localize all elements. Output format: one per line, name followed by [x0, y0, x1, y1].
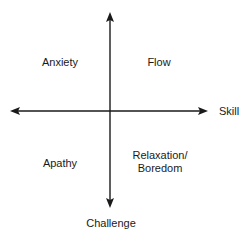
- axes-graphic: [0, 0, 251, 236]
- quadrant-label-anxiety: Anxiety: [42, 56, 78, 69]
- quadrant-label-line-2: Boredom: [132, 162, 187, 175]
- quadrant-label-line-1: Relaxation/: [132, 149, 187, 162]
- quadrant-label-apathy: Apathy: [43, 157, 77, 170]
- quadrant-label-flow: Flow: [147, 56, 170, 69]
- flow-quadrant-diagram: Anxiety Flow Apathy Relaxation/ Boredom …: [0, 0, 251, 236]
- axis-label-challenge: Challenge: [86, 217, 136, 230]
- axis-label-skill: Skill: [219, 105, 239, 118]
- horizontal-axis: [10, 107, 208, 115]
- vertical-axis: [106, 12, 114, 208]
- quadrant-label-relaxation-boredom: Relaxation/ Boredom: [132, 149, 187, 175]
